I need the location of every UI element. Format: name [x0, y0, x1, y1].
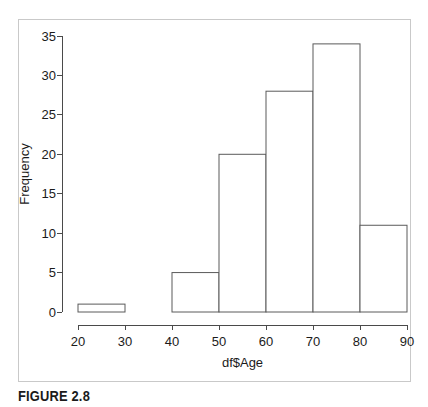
bars-group — [78, 44, 407, 312]
x-axis-tick-label: 60 — [246, 335, 286, 348]
y-axis-tick-label: 5 — [20, 266, 56, 279]
histogram-bar — [78, 304, 125, 312]
histogram-bar — [172, 273, 219, 312]
histogram-bar — [360, 225, 407, 312]
x-axis-tick-label: 20 — [58, 335, 98, 348]
x-axis-tick-label: 70 — [293, 335, 333, 348]
y-axis-tick-label: 35 — [20, 30, 56, 43]
y-axis-tick-label: 30 — [20, 69, 56, 82]
y-axis-tick-label: 25 — [20, 108, 56, 121]
x-axis-tick-label: 30 — [105, 335, 145, 348]
x-axis-tick-label: 50 — [199, 335, 239, 348]
x-axis-title: df$Age — [222, 356, 263, 369]
histogram-bar — [219, 154, 266, 312]
x-axis-tick-label: 40 — [152, 335, 192, 348]
x-axis-tick-label: 90 — [387, 335, 427, 348]
y-axis-title: Frequency — [18, 143, 31, 204]
histogram-bar — [313, 44, 360, 312]
x-axis-tick-label: 80 — [340, 335, 380, 348]
figure-container: 05101520253035 2030405060708090 Frequenc… — [0, 0, 428, 407]
y-axis-tick-label: 0 — [20, 306, 56, 319]
y-axis-tick-label: 10 — [20, 227, 56, 240]
figure-caption: FIGURE 2.8 — [18, 388, 90, 404]
histogram-bar — [266, 91, 313, 312]
